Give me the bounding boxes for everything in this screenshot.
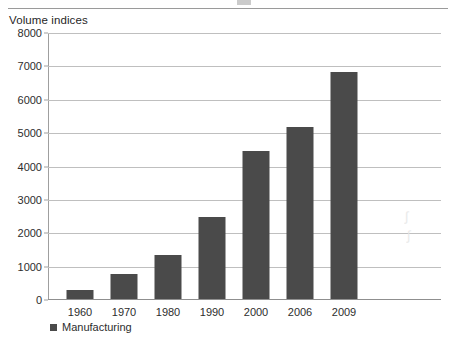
y-tick-label: 8000 <box>18 27 42 39</box>
x-tick-label: 1980 <box>156 306 180 318</box>
plot-area: 010002000300040005000600070008000 196019… <box>48 33 441 300</box>
bar <box>199 217 226 299</box>
y-tick-mark <box>44 300 48 301</box>
bar-slot: 2000 <box>234 33 278 299</box>
x-tick-label: 1970 <box>112 306 136 318</box>
bar <box>331 72 358 299</box>
y-tick-label: 5000 <box>18 127 42 139</box>
bar-slot: 1970 <box>102 33 146 299</box>
y-tick-label: 6000 <box>18 94 42 106</box>
y-tick-label: 7000 <box>18 60 42 72</box>
bar-slot: 1980 <box>146 33 190 299</box>
chart-legend: Manufacturing <box>50 321 132 333</box>
bar-group: 1960197019801990200020062009 <box>48 33 441 299</box>
bar <box>67 290 94 299</box>
page-top-rule <box>8 8 448 9</box>
y-tick-label: 2000 <box>18 227 42 239</box>
legend-item-label: Manufacturing <box>62 321 132 333</box>
bar-slot: 1990 <box>190 33 234 299</box>
bar <box>111 274 138 299</box>
x-tick-label: 2000 <box>244 306 268 318</box>
bar-slot: 2009 <box>322 33 366 299</box>
bar <box>287 127 314 299</box>
x-axis-line <box>48 299 441 300</box>
y-tick-label: 0 <box>36 294 42 306</box>
bar-slot: 2006 <box>278 33 322 299</box>
x-tick-label: 1960 <box>68 306 92 318</box>
y-tick-label: 1000 <box>18 261 42 273</box>
bar-slot: 1960 <box>58 33 102 299</box>
x-tick-label: 1990 <box>200 306 224 318</box>
volume-indices-bar-chart: Volume indices 0100020003000400050006000… <box>0 0 455 340</box>
x-tick-label: 2009 <box>332 306 356 318</box>
bar <box>155 255 182 299</box>
y-axis-title: Volume indices <box>9 14 88 26</box>
y-tick-label: 4000 <box>18 161 42 173</box>
square-marker-icon <box>50 324 57 331</box>
x-tick-label: 2006 <box>288 306 312 318</box>
bar <box>243 151 270 299</box>
scan-artifact <box>237 0 251 5</box>
y-tick-label: 3000 <box>18 194 42 206</box>
